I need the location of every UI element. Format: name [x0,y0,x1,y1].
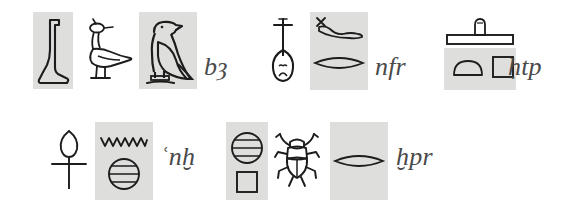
transliteration-hetep: ḥtp [508,52,542,82]
placenta-glyph [229,130,265,166]
transliteration-kheper: ḫpr [396,142,433,172]
placenta-glyph [106,156,142,192]
ba-bird-glyph [142,16,196,86]
heron-bird-glyph [80,16,135,82]
ankh-glyph [48,126,90,194]
foot-glyph [33,12,73,89]
mouth-glyph [313,52,365,74]
bread-loaf-glyph [452,58,484,78]
transliteration-ankh: ʿnḫ [160,142,195,172]
water-ripple-glyph [99,134,149,150]
mouth-glyph [333,150,385,172]
horned-viper-glyph [313,15,365,43]
transliteration-nefer: nfr [375,52,406,82]
scarab-beetle-glyph [274,128,320,192]
transliteration-ba: bȝ [204,52,228,82]
hieroglyph-plate: bȝ [0,0,570,210]
offering-mat-with-loaf-glyph [444,14,516,48]
reed-mat-stool-glyph [235,170,259,194]
heart-windpipe-glyph [268,14,298,86]
